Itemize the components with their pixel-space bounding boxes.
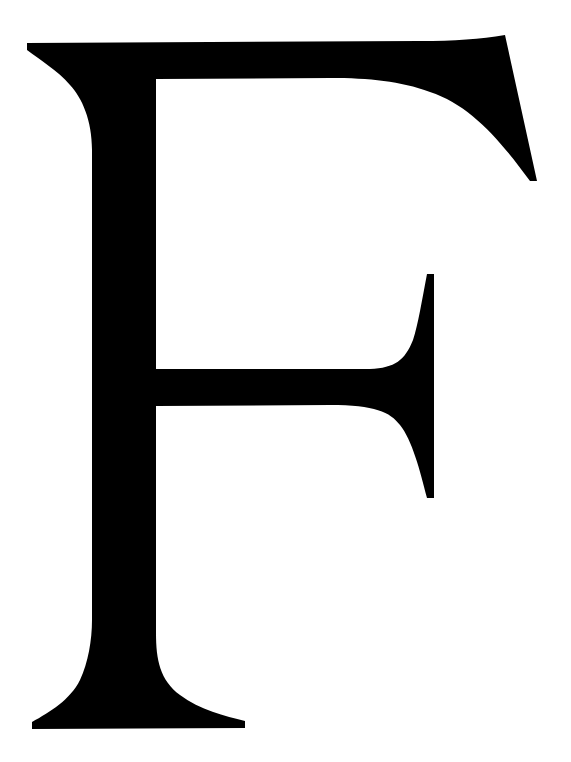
letter-f-glyph [0, 0, 571, 762]
